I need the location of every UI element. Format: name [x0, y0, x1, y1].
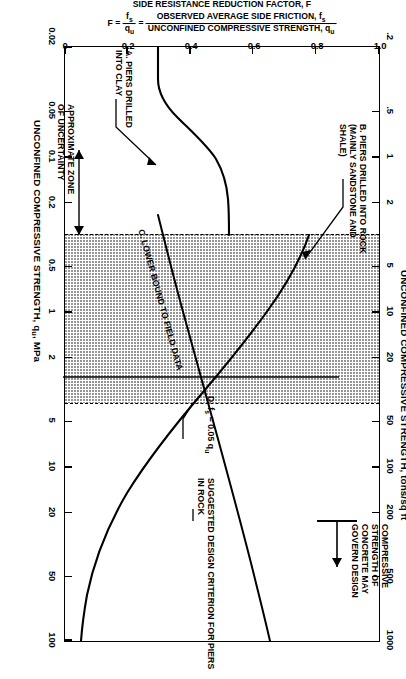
tick-label-left-5: 1 [47, 308, 58, 313]
formula-expanded-den-sub: u [330, 28, 334, 35]
annotation-uncertainty-zone: APPROXIMATE ZONE OF UNCERTAINTY [56, 104, 76, 194]
formula-expanded-den-text: UNCONFINED COMPRESSIVE STRENGTH, q [148, 23, 330, 33]
curves-overlay [63, 47, 379, 643]
tick-label-right-11: 1000 [385, 630, 396, 650]
axis-title-formula: F = fs qu = OBSERVED AVERAGE SIDE FRICTI… [108, 12, 337, 36]
tick-label-right-2: 1 [385, 153, 396, 158]
formula-expanded-den: UNCONFINED COMPRESSIVE STRENGTH, qu [146, 24, 337, 36]
axis-title-strength-mpa-text: UNCONFINED COMPRESSIVE STRENGTH, q [32, 120, 43, 331]
formula-ratio: fs qu [123, 12, 136, 36]
annotation-curve-d: D. fs = 0.05 qu [203, 396, 216, 453]
chart-figure: 0.02 0.05 0.1 0.2 0.5 1 2 5 10 20 50 100… [0, 0, 406, 679]
tick-label-right-7: 50 [385, 415, 396, 425]
annotation-curve-d-rest-sub: u [204, 449, 211, 453]
formula-expanded-num-sub: s [322, 16, 326, 23]
axis-title-strength-mpa-sub: u [30, 331, 39, 336]
tick-label-right-5: 10 [385, 306, 396, 316]
axis-title-reduction-factor-block: SIDE RESISTANCE REDUCTION FACTOR, F F = … [108, 0, 337, 36]
tick-label-left-10: 50 [47, 571, 58, 581]
annotation-design-criterion: SUGGESTED DESIGN CRITERION FOR PIERS IN … [196, 478, 216, 679]
tick-label-f-0: 1.0 [374, 40, 387, 51]
tick-label-left-4: 0.5 [47, 259, 58, 272]
uncertainty-zone-arrowhead-right [74, 226, 84, 235]
tick-label-left-3: 0.2 [47, 196, 58, 209]
formula-ratio-num-sub: s [129, 16, 133, 23]
formula-expanded-num-text: OBSERVED AVERAGE SIDE FRICTION, f [157, 11, 322, 21]
axis-title-strength-mpa: UNCONFINED COMPRESSIVE STRENGTH, qu, MPa [32, 120, 43, 362]
tick-label-right-6: 20 [385, 352, 396, 362]
tick-label-right-9: 200 [385, 504, 396, 519]
tick-label-f-5: 0 [62, 40, 67, 51]
tick-label-right-4: 5 [385, 262, 396, 267]
formula-ratio-den: qu [123, 24, 136, 36]
axis-title-strength-mpa-unit: , MPa [32, 336, 43, 362]
formula-expanded: OBSERVED AVERAGE SIDE FRICTION, fs UNCON… [146, 12, 337, 36]
axis-title-strength-tsf: UNCONFINED COMPRESSIVE STRENGTH, tons/sq… [399, 270, 406, 520]
tick-label-left-7: 5 [47, 417, 58, 422]
tick-label-left-9: 20 [47, 507, 58, 517]
tick-label-right-0: .2 [385, 32, 396, 40]
tick-label-left-8: 10 [47, 461, 58, 471]
annotation-curve-a: A. PIERS DRILLED INTO CLAY [114, 50, 134, 128]
annotation-curve-d-label: D. f [206, 396, 216, 410]
tick-label-left-0: 0.02 [47, 27, 58, 45]
plot-area [64, 46, 380, 642]
tick-label-left-11: 100 [47, 632, 58, 647]
annotation-concrete-strength: COMPRESSIVE STRENGTH OF CONCRETE MAY GOV… [349, 524, 390, 598]
tick-label-f-3: 0.4 [185, 40, 198, 51]
concrete-note-arrowhead [332, 558, 342, 567]
leader-line-d [183, 403, 193, 439]
tick-label-right-1: .5 [385, 106, 396, 114]
tick-label-f-2: 0.6 [248, 40, 261, 51]
tick-label-f-1: 0.8 [311, 40, 324, 51]
tick-label-right-3: 2 [385, 199, 396, 204]
formula-lhs: F = [108, 18, 123, 28]
annotation-curve-d-rest: = 0.05 q [206, 414, 216, 449]
curve-a-piers-into-clay [158, 47, 229, 235]
formula-ratio-den-sub: u [130, 28, 134, 35]
tick-label-left-6: 2 [47, 354, 58, 359]
annotation-curve-b: B. PIERS DRILLED INTO ROCK (MAINLY SANDS… [338, 124, 368, 253]
formula-equals: = [138, 18, 143, 28]
axis-title-reduction-factor: SIDE RESISTANCE REDUCTION FACTOR, F [108, 0, 337, 10]
tick-label-right-8: 100 [385, 458, 396, 473]
formula-lhs-text: F = [108, 18, 121, 28]
